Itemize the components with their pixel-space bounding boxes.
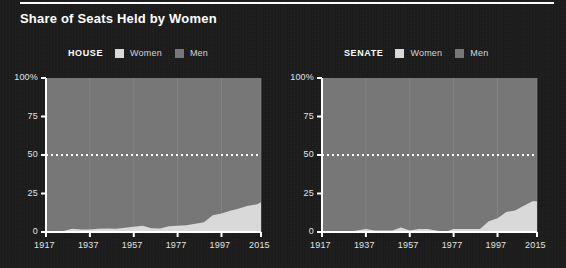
y-axis-tick-label: 0 xyxy=(309,226,314,236)
y-axis-tick-label: 100% xyxy=(14,72,38,82)
x-axis-tick-label: 2015 xyxy=(249,240,270,250)
legend-house: HOUSE Women Men xyxy=(68,47,221,59)
x-axis-tick-label: 1977 xyxy=(442,240,463,250)
legend-house-entry-women[interactable]: Women xyxy=(115,48,162,58)
legend-senate-entry-women[interactable]: Women xyxy=(395,48,442,58)
y-axis-tick-label: 75 xyxy=(28,111,38,121)
men-swatch-icon xyxy=(175,49,184,58)
men-swatch-icon xyxy=(455,49,464,58)
x-axis-tick-label: 1917 xyxy=(34,240,55,250)
women-swatch-icon xyxy=(115,49,124,58)
y-axis-tick-label: 50 xyxy=(28,149,38,159)
women-swatch-icon xyxy=(395,49,404,58)
top-divider-rule xyxy=(20,2,554,4)
x-axis-tick-label: 1917 xyxy=(310,240,331,250)
x-axis-tick-label: 1957 xyxy=(398,240,419,250)
y-axis-tick-label: 0 xyxy=(33,226,38,236)
y-axis-tick-label: 100% xyxy=(290,72,314,82)
x-axis-tick-label: 2015 xyxy=(525,240,546,250)
legend-house-label-men: Men xyxy=(190,48,208,58)
x-axis-tick-label: 1937 xyxy=(78,240,99,250)
chart-house-svg xyxy=(10,72,262,258)
chart-page: Share of Seats Held by Women HOUSE Women… xyxy=(0,0,566,268)
chart-house-plot: 100%7550250191719371957197719972015 xyxy=(10,72,262,258)
chart-senate-svg xyxy=(286,72,538,258)
legend-house-label-women: Women xyxy=(130,48,162,58)
legend-senate-entry-men[interactable]: Men xyxy=(455,48,488,58)
legend-house-title: HOUSE xyxy=(68,48,103,58)
y-axis-tick-label: 50 xyxy=(304,149,314,159)
chart-senate-plot: 100%7550250191719371957197719972015 xyxy=(286,72,538,258)
legend-senate-label-men: Men xyxy=(470,48,488,58)
x-axis-tick-label: 1997 xyxy=(210,240,231,250)
x-axis-tick-label: 1977 xyxy=(166,240,187,250)
y-axis-tick-label: 25 xyxy=(304,188,314,198)
legend-house-entry-men[interactable]: Men xyxy=(175,48,208,58)
legend-senate-title: SENATE xyxy=(344,48,383,58)
x-axis-tick-label: 1957 xyxy=(122,240,143,250)
y-axis-tick-label: 25 xyxy=(28,188,38,198)
chart-house: 100%7550250191719371957197719972015 xyxy=(10,72,262,258)
x-axis-tick-label: 1937 xyxy=(354,240,375,250)
x-axis-tick-label: 1997 xyxy=(486,240,507,250)
chart-senate: 100%7550250191719371957197719972015 xyxy=(286,72,538,258)
page-title: Share of Seats Held by Women xyxy=(20,11,217,26)
legend-senate: SENATE Women Men xyxy=(344,47,501,59)
y-axis-tick-label: 75 xyxy=(304,111,314,121)
legend-senate-label-women: Women xyxy=(410,48,442,58)
